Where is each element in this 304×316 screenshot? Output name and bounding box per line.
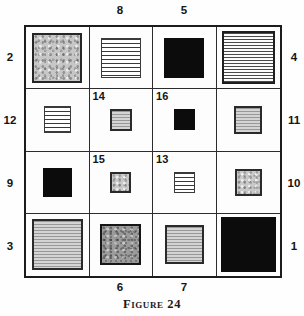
stimulus-square bbox=[235, 169, 262, 196]
grid-cell-r3c3: 13 bbox=[153, 152, 217, 214]
figure-24-page: 8 5 2 12 9 3 4 11 10 1 6 7 14 16 15 13 F… bbox=[0, 0, 304, 316]
left-label-row3: 9 bbox=[0, 176, 20, 190]
grid-cell-r4c1 bbox=[26, 214, 90, 276]
right-label-row3: 10 bbox=[284, 176, 304, 190]
stimulus-square bbox=[174, 172, 195, 193]
grid-cell-r4c3 bbox=[153, 214, 217, 276]
left-label-row2: 12 bbox=[0, 113, 20, 127]
bottom-label-col2: 6 bbox=[110, 280, 130, 294]
stimulus-square bbox=[101, 38, 141, 78]
stimulus-square bbox=[44, 106, 71, 133]
grid-cell-r2c1 bbox=[26, 89, 90, 151]
cell-number-label: 16 bbox=[156, 90, 169, 102]
grid-cell-r1c2 bbox=[90, 27, 154, 89]
grid-cell-r2c3: 16 bbox=[153, 89, 217, 151]
stimulus-square bbox=[32, 219, 83, 270]
grid-cell-r3c2: 15 bbox=[90, 152, 154, 214]
stimulus-square bbox=[32, 33, 82, 83]
top-label-col2: 8 bbox=[110, 3, 130, 17]
cell-number-label: 15 bbox=[93, 153, 106, 165]
grid-cell-r3c1 bbox=[26, 152, 90, 214]
stimulus-square bbox=[110, 109, 132, 131]
grid-cell-r4c4 bbox=[217, 214, 281, 276]
cell-number-label: 13 bbox=[156, 153, 169, 165]
grid-cell-r3c4 bbox=[217, 152, 281, 214]
stimulus-square bbox=[164, 38, 204, 78]
left-label-row4: 3 bbox=[0, 239, 20, 253]
cell-number-label: 14 bbox=[93, 90, 106, 102]
stimulus-grid: 14 16 15 13 bbox=[24, 25, 282, 278]
stimulus-square bbox=[43, 168, 72, 197]
stimulus-square bbox=[174, 109, 195, 130]
stimulus-square bbox=[110, 172, 131, 193]
right-label-row4: 1 bbox=[284, 239, 304, 253]
stimulus-square bbox=[100, 224, 141, 265]
stimulus-square bbox=[165, 225, 204, 264]
stimulus-square bbox=[221, 217, 276, 272]
grid-cell-r2c4 bbox=[217, 89, 281, 151]
stimulus-square bbox=[222, 31, 275, 84]
bottom-label-col3: 7 bbox=[174, 280, 194, 294]
right-label-row2: 11 bbox=[284, 113, 304, 127]
grid-cell-r4c2 bbox=[90, 214, 154, 276]
grid-cell-r1c1 bbox=[26, 27, 90, 89]
left-label-row1: 2 bbox=[0, 50, 20, 64]
grid-cell-r1c4 bbox=[217, 27, 281, 89]
top-label-col3: 5 bbox=[174, 3, 194, 17]
grid-cell-r2c2: 14 bbox=[90, 89, 154, 151]
grid-cell-r1c3 bbox=[153, 27, 217, 89]
figure-caption: Figure 24 bbox=[0, 297, 304, 312]
right-label-row1: 4 bbox=[284, 50, 304, 64]
stimulus-square bbox=[234, 106, 262, 134]
